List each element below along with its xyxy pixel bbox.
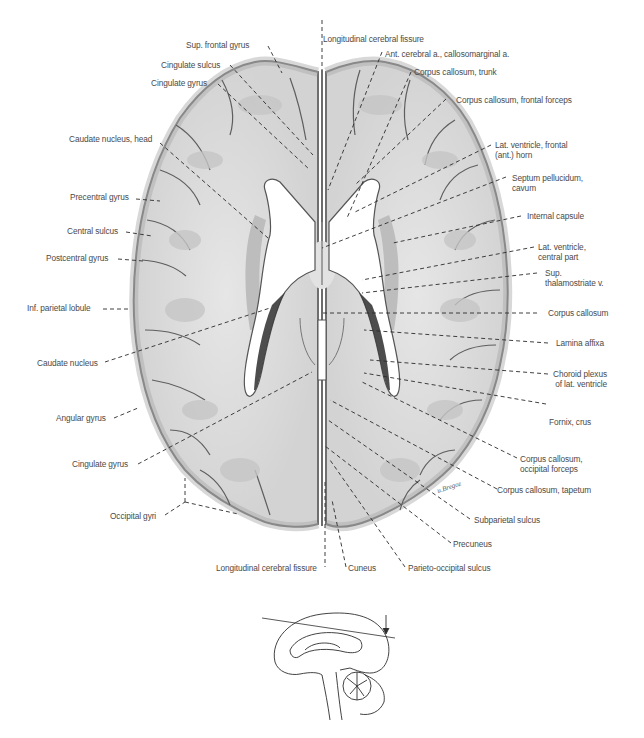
label-sup-thalamostriate-v: Sup. thalamostriate v. [545,268,604,288]
left-hemisphere [134,61,319,527]
label-cuneus: Cuneus [348,563,376,573]
label-cingulate-gyrus-top: Cingulate gyrus [151,78,207,88]
label-lat-ventricle-frontal-horn: Lat. ventricle, frontal (ant.) horn [495,140,567,160]
label-central-sulcus: Central sulcus [67,226,118,236]
down-arrow-icon [383,628,389,634]
label-angular-gyrus: Angular gyrus [56,413,106,423]
label-precentral-gyrus: Precentral gyrus [70,192,129,202]
label-caudate-nucleus: Caudate nucleus [37,358,98,368]
label-cingulate-sulcus: Cingulate sulcus [161,60,220,70]
label-parieto-occipital-sulcus: Parieto-occipital sulcus [408,563,490,573]
label-ant-cerebral-a: Ant. cerebral a., callosomarginal a. [385,49,509,59]
label-corpus-callosum-frontal-forceps: Corpus callosum, frontal forceps [456,95,572,105]
label-fornix-crus: Fornix, crus [549,417,591,427]
label-corpus-callosum-occipital-forceps: Corpus callosum, occipital forceps [520,454,583,474]
brain-section-illustration: u.Bregoz [0,0,644,738]
label-septum-pellucidum-cavum: Septum pellucidum, cavum [512,173,583,193]
brain-horizontal-section-figure: u.Bregoz [0,0,644,738]
label-postcentral-gyrus: Postcentral gyrus [46,253,108,263]
label-inf-parietal-lobule: Inf. parietal lobule [27,303,91,313]
label-corpus-callosum-tapetum: Corpus callosum, tapetum [497,485,591,495]
label-subparietal-sulcus: Subparietal sulcus [474,515,540,525]
label-cingulate-gyrus-bottom: Cingulate gyrus [72,459,128,469]
label-internal-capsule: Internal capsule [527,211,584,221]
label-choroid-plexus: Choroid plexus of lat. ventricle [553,369,607,389]
label-occipital-gyri: Occipital gyri [110,511,156,521]
label-longitudinal-cerebral-fissure-bottom: Longitudinal cerebral fissure [216,563,317,573]
label-longitudinal-cerebral-fissure-top: Longitudinal cerebral fissure [323,34,424,44]
label-precuneus: Precuneus [453,539,492,549]
label-caudate-nucleus-head: Caudate nucleus, head [69,134,152,144]
right-hemisphere: u.Bregoz [326,61,508,527]
label-corpus-callosum: Corpus callosum [548,308,608,318]
label-lat-ventricle-central-part: Lat. ventricle, central part [538,242,586,262]
label-sup-frontal-gyrus: Sup. frontal gyrus [186,40,249,50]
orientation-inset [262,613,395,720]
label-corpus-callosum-trunk: Corpus callosum, trunk [414,67,497,77]
label-lamina-affixa: Lamina affixa [556,338,604,348]
